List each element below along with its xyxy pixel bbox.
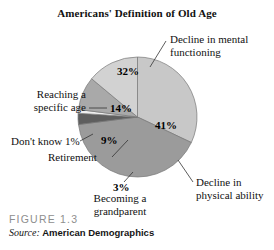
figure-number: FIGURE 1.3	[9, 213, 259, 225]
callout-decline-physical-line2: physical ability	[196, 189, 264, 202]
source-line: Source: American Demographics	[9, 227, 259, 238]
slice-value-reaching: 14%	[110, 102, 132, 114]
source-name: American Demographics	[42, 227, 154, 238]
callout-dont-know: Don't know 1%	[11, 135, 80, 148]
callout-grandparent-line1: Becoming a	[74, 192, 166, 205]
callout-decline-mental: Decline in mental functioning	[170, 33, 248, 58]
callout-reaching-line1: Reaching a	[0, 88, 86, 101]
slice-value-mental: 32%	[117, 65, 139, 77]
callout-reaching-specific-age: Reaching a specific age	[0, 88, 86, 113]
callout-decline-mental-line1: Decline in mental	[170, 33, 248, 46]
slice-value-retirement: 9%	[101, 134, 118, 146]
figure-container: Americans' Definition of Old Age 32% 41%…	[0, 0, 274, 250]
callout-decline-physical: Decline in physical ability	[196, 176, 264, 201]
source-label: Source:	[9, 227, 40, 238]
callout-decline-physical-line1: Decline in	[196, 176, 264, 189]
leader-line-physical	[178, 160, 193, 182]
slice-value-physical: 41%	[155, 119, 177, 131]
callout-retirement: Retirement	[48, 151, 97, 164]
callout-reaching-line2: specific age	[0, 101, 86, 114]
figure-caption: FIGURE 1.3 Source: American Demographics	[9, 213, 259, 238]
callout-decline-mental-line2: functioning	[170, 46, 248, 59]
